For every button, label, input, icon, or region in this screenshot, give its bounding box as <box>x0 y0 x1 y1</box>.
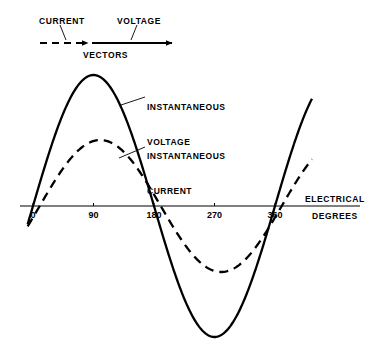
ac-waveform-figure: CURRENT VOLTAGE VECTORS INSTANTANEOUS VO… <box>0 0 371 361</box>
current-vector-leader-line <box>60 25 66 40</box>
voltage-callout-leader-line <box>121 97 145 105</box>
voltage-vector-leader-line <box>131 25 137 40</box>
diagram-drawing-layer <box>0 0 371 361</box>
